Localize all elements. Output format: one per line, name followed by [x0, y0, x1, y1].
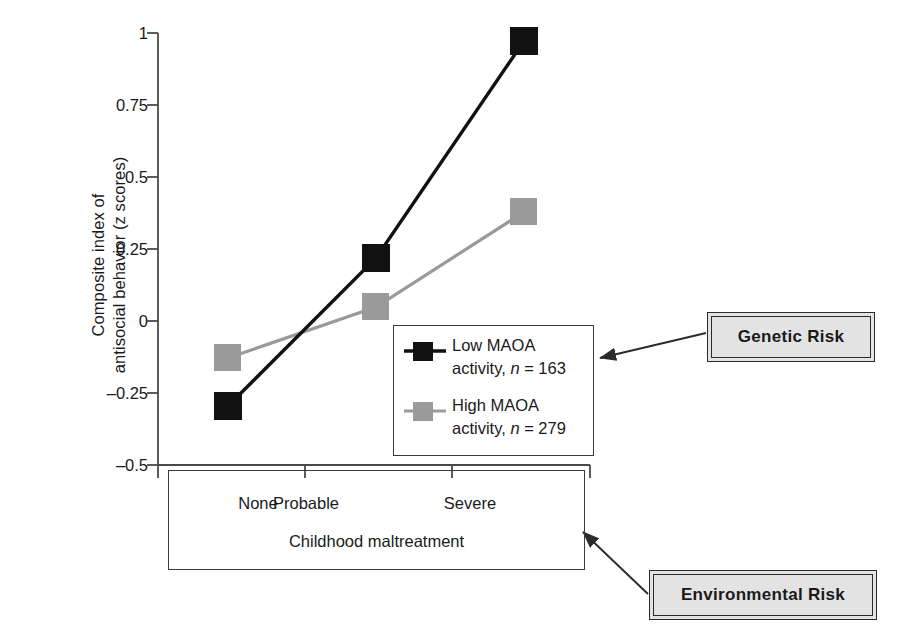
genetic-risk-leader-line: [600, 333, 706, 358]
legend-label-line2-post: = 279: [520, 419, 566, 437]
x-axis-caption-label: Childhood maltreatment: [168, 532, 585, 551]
x-axis-caption-box: [168, 470, 585, 570]
annotation-environmental-risk: Environmental Risk: [649, 570, 877, 620]
legend-label-high-maoa: High MAOA activity, n = 279: [452, 394, 566, 440]
legend-label-line2-italic: n: [510, 359, 519, 377]
annotation-genetic-risk-label: Genetic Risk: [711, 316, 871, 358]
legend-label-line1: High MAOA: [452, 394, 566, 417]
annotation-genetic-risk: Genetic Risk: [707, 312, 875, 362]
data-point-marker: [362, 293, 389, 320]
chart-legend: Low MAOA activity, n = 163 High MAOA act…: [393, 325, 594, 456]
annotation-environmental-risk-label: Environmental Risk: [653, 574, 873, 616]
legend-label-line1: Low MAOA: [452, 334, 566, 357]
y-axis-ticks: [147, 33, 158, 465]
data-point-marker: [510, 198, 537, 225]
chart-figure: Composite index of antisocial behavior (…: [0, 0, 900, 639]
environmental-risk-leader-line: [583, 532, 648, 594]
data-point-marker: [214, 344, 241, 371]
legend-label-low-maoa: Low MAOA activity, n = 163: [452, 334, 566, 380]
data-point-marker: [362, 244, 390, 272]
legend-label-line2: activity, n = 279: [452, 417, 566, 440]
data-point-marker: [510, 27, 538, 55]
legend-label-line2-pre: activity,: [452, 419, 510, 437]
legend-swatch-low-maoa: [404, 340, 446, 362]
legend-label-line2-post: = 163: [520, 359, 566, 377]
data-point-marker: [214, 392, 242, 420]
legend-label-line2-pre: activity,: [452, 359, 510, 377]
legend-swatch-high-maoa: [404, 400, 446, 422]
legend-label-line2-italic: n: [510, 419, 519, 437]
legend-label-line2: activity, n = 163: [452, 357, 566, 380]
